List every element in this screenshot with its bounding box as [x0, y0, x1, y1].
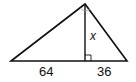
left-segment-label: 64 — [39, 64, 53, 79]
right-angle-mark-base — [85, 55, 91, 61]
triangle-diagram: x 64 36 — [0, 0, 136, 82]
right-segment-label: 36 — [97, 64, 111, 79]
altitude-label: x — [89, 29, 97, 43]
triangle — [11, 4, 127, 61]
